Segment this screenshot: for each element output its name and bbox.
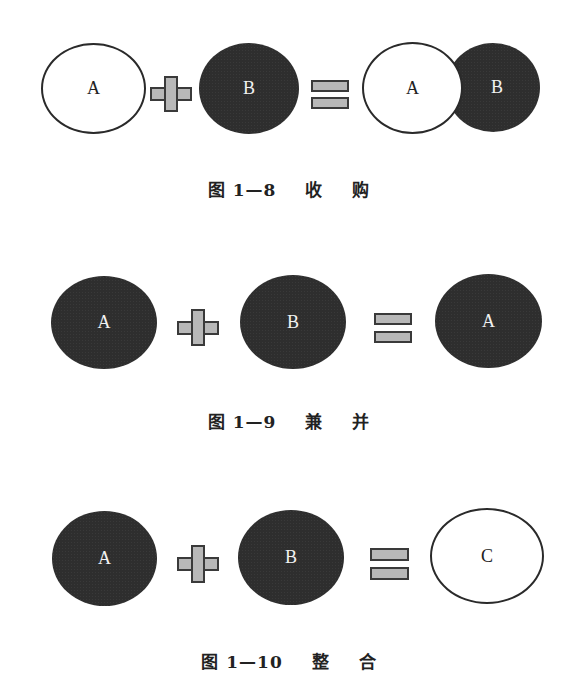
figure-merger: A B A 图 1—9 兼 并 bbox=[0, 230, 578, 450]
company-b-ellipse: B bbox=[240, 275, 346, 369]
company-a-ellipse: A bbox=[52, 511, 157, 606]
company-a-label: A bbox=[98, 548, 111, 569]
figure-caption: 图 1—9 兼 并 bbox=[0, 408, 578, 433]
result-company-c-label: C bbox=[481, 546, 493, 567]
caption-prefix: 图 bbox=[208, 408, 226, 433]
result-company-b-label: B bbox=[491, 77, 503, 98]
caption-prefix: 图 bbox=[208, 176, 226, 201]
figure-caption: 图 1—8 收 购 bbox=[0, 176, 578, 201]
company-b-ellipse: B bbox=[238, 510, 344, 605]
company-b-label: B bbox=[243, 78, 255, 99]
result-company-a-label: A bbox=[406, 78, 419, 99]
caption-number: 1—10 bbox=[226, 652, 283, 672]
result-company-a-label: A bbox=[482, 311, 495, 332]
plus-icon bbox=[150, 76, 192, 112]
company-b-label: B bbox=[287, 312, 299, 333]
caption-word-1: 整 bbox=[312, 648, 330, 673]
company-a-ellipse: A bbox=[41, 43, 146, 134]
caption-number: 1—8 bbox=[233, 180, 277, 200]
company-b-ellipse: B bbox=[199, 43, 299, 134]
plus-icon bbox=[177, 309, 219, 346]
equals-icon bbox=[311, 80, 349, 109]
company-a-label: A bbox=[98, 312, 111, 333]
figure-caption: 图 1—10 整 合 bbox=[0, 648, 578, 673]
equals-icon bbox=[374, 313, 412, 343]
company-b-label: B bbox=[285, 547, 297, 568]
plus-icon bbox=[177, 545, 219, 583]
caption-number: 1—9 bbox=[233, 412, 277, 432]
figure-acquisition: A B B A 图 1—8 收 购 bbox=[0, 0, 578, 220]
figure-integration: A B C 图 1—10 整 合 bbox=[0, 470, 578, 689]
caption-word-2: 合 bbox=[359, 648, 377, 673]
result-company-c-ellipse: C bbox=[430, 508, 544, 604]
company-a-ellipse: A bbox=[51, 276, 157, 369]
caption-word-2: 并 bbox=[352, 408, 370, 433]
result-company-a-ellipse: A bbox=[435, 274, 542, 368]
caption-word-1: 收 bbox=[305, 176, 323, 201]
caption-prefix: 图 bbox=[201, 648, 219, 673]
result-company-a-ellipse: A bbox=[362, 42, 463, 134]
company-a-label: A bbox=[87, 78, 100, 99]
equals-icon bbox=[370, 548, 409, 580]
caption-word-2: 购 bbox=[352, 176, 370, 201]
caption-word-1: 兼 bbox=[305, 408, 323, 433]
